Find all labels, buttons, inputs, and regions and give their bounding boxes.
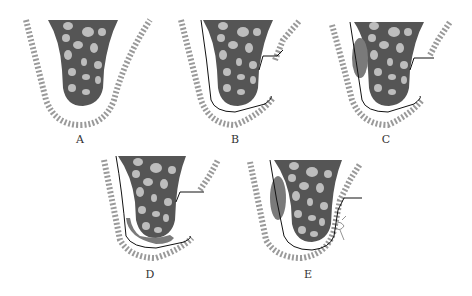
- panel-c: C: [310, 0, 470, 150]
- panel-d: D: [100, 140, 260, 290]
- panel-label-e: E: [298, 268, 318, 281]
- tooth-socket-diagram-a: [0, 0, 160, 150]
- tooth-socket-diagram-b: [155, 0, 315, 150]
- panel-b: B: [155, 0, 315, 150]
- panel-e: E: [240, 140, 400, 290]
- panel-label-d: D: [140, 268, 160, 281]
- tooth-socket-diagram-d: [100, 140, 260, 296]
- panel-label-a: A: [70, 133, 90, 146]
- tooth-socket-diagram-c: [310, 0, 470, 150]
- tooth-socket-diagram-e: [240, 140, 400, 296]
- panel-a: A: [0, 0, 160, 150]
